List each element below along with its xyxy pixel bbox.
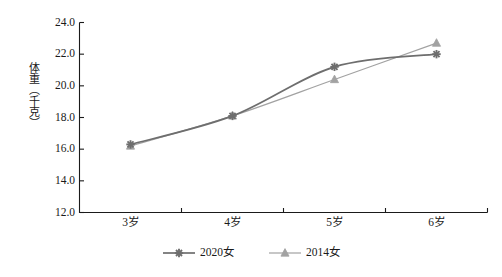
series-2014女: [126, 39, 440, 149]
plot-area: [0, 0, 502, 277]
data-point-marker: [228, 112, 236, 120]
legend-label: 2014女: [306, 246, 340, 259]
chart-legend: 2020女2014女: [0, 246, 502, 259]
legend-item[interactable]: 2014女: [268, 246, 340, 259]
data-point-marker: [175, 248, 183, 256]
star-icon: [162, 247, 196, 259]
triangle-icon: [268, 247, 302, 259]
series-line: [131, 54, 437, 144]
data-point-marker: [126, 140, 134, 148]
legend-item[interactable]: 2020女: [162, 246, 234, 259]
data-point-marker: [330, 63, 338, 71]
data-point-marker: [281, 248, 289, 256]
data-point-marker: [432, 50, 440, 58]
axis-lines: [80, 23, 488, 213]
data-point-marker: [432, 39, 440, 47]
line-chart: 体重（千克） 24.022.020.018.016.014.012.0 3岁4岁…: [0, 0, 502, 277]
legend-label: 2020女: [200, 246, 234, 259]
series-2020女: [126, 50, 440, 149]
